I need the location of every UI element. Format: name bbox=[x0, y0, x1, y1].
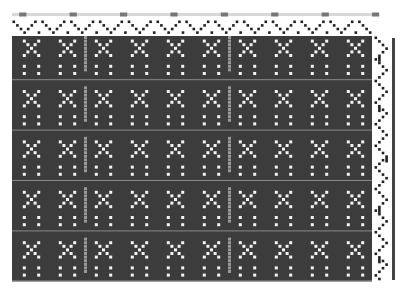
drawdown-grid bbox=[12, 36, 372, 281]
drawdown-canvas bbox=[0, 0, 404, 293]
weaving-draft bbox=[0, 0, 404, 293]
edge-bar bbox=[392, 38, 395, 280]
warp-color-bar bbox=[12, 13, 372, 16]
